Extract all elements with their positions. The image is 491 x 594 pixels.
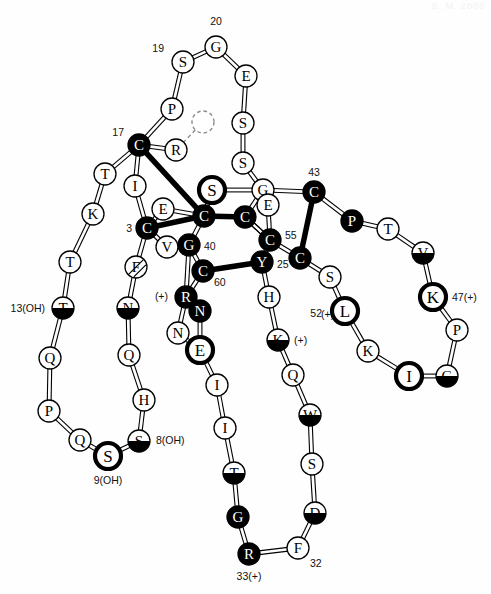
- residue-s22[interactable]: S: [232, 112, 254, 134]
- bond: [242, 86, 248, 113]
- bond: [126, 318, 130, 345]
- residue-c54[interactable]: C: [289, 247, 311, 269]
- residue-letter: T: [100, 166, 109, 182]
- residue-letter: S: [207, 181, 216, 200]
- residue-s8[interactable]: S: [128, 430, 150, 452]
- bond: [51, 317, 63, 349]
- residue-c60[interactable]: C: [192, 260, 214, 282]
- label-60: 60: [214, 276, 226, 288]
- residue-t14[interactable]: T: [59, 251, 81, 273]
- residue-c17[interactable]: C: [128, 134, 150, 156]
- label-32: 32: [310, 557, 322, 569]
- residue-q28[interactable]: Q: [282, 364, 304, 386]
- residue-p44[interactable]: P: [341, 210, 363, 232]
- bond: [178, 306, 185, 323]
- residue-w29[interactable]: W: [299, 404, 321, 426]
- residue-f4[interactable]: F: [125, 256, 147, 278]
- bond: [55, 416, 74, 434]
- residue-s19[interactable]: S: [172, 51, 194, 73]
- residue-d31[interactable]: D: [304, 502, 326, 524]
- residue-c55[interactable]: C: [259, 229, 281, 251]
- residue-letter: S: [326, 269, 334, 285]
- residue-q10[interactable]: Q: [69, 429, 91, 451]
- residue-e-side[interactable]: E: [152, 198, 174, 220]
- residue-h7[interactable]: H: [133, 389, 155, 411]
- residue-p18[interactable]: P: [161, 98, 183, 120]
- label-9-oh: 9(OH): [94, 474, 123, 486]
- residue-circle: [192, 111, 214, 133]
- residue-letter: C: [199, 208, 209, 224]
- residue-c3[interactable]: C: [136, 217, 158, 239]
- residue-letter: E: [195, 341, 205, 360]
- label-19: 19: [152, 42, 164, 54]
- bond: [269, 306, 278, 330]
- residue-i36[interactable]: I: [214, 417, 236, 439]
- residue-s30[interactable]: S: [301, 453, 323, 475]
- residue-letter: T: [383, 221, 392, 237]
- residue-letter: V: [418, 245, 429, 261]
- label-17: 17: [112, 126, 124, 138]
- residue-s23[interactable]: S: [232, 152, 254, 174]
- bond: [225, 437, 234, 463]
- residue-letter: F: [132, 259, 140, 275]
- residue-r33[interactable]: R: [238, 543, 260, 565]
- residue-q6[interactable]: Q: [118, 344, 140, 366]
- residue-letter: R: [171, 142, 181, 158]
- residue-e38[interactable]: E: [187, 337, 213, 363]
- residue-y25[interactable]: Y: [251, 251, 273, 273]
- label-55: 55: [285, 229, 297, 241]
- residue-e-center[interactable]: E: [257, 194, 279, 216]
- residue-k15[interactable]: K: [82, 203, 104, 225]
- residue-letter: P: [168, 101, 176, 117]
- bond: [63, 272, 71, 299]
- residue-letter: H: [264, 289, 275, 305]
- residue-letter: Q: [75, 432, 86, 448]
- residue-i50[interactable]: I: [396, 363, 422, 389]
- residue-letter: F: [294, 540, 302, 556]
- residue-i2[interactable]: I: [124, 175, 146, 197]
- residue-g20[interactable]: G: [205, 36, 227, 58]
- residue-l52[interactable]: L: [332, 298, 358, 324]
- residue-c-center-left[interactable]: C: [193, 205, 215, 227]
- residue-v46[interactable]: V: [412, 242, 434, 264]
- residue-k27[interactable]: K: [267, 329, 289, 351]
- residue-s53[interactable]: S: [319, 266, 341, 288]
- residue-letter: P: [45, 403, 53, 419]
- residue-k47[interactable]: K: [420, 284, 446, 310]
- residue-g34[interactable]: G: [227, 506, 249, 528]
- residue-letter: C: [142, 220, 152, 236]
- residue-t13[interactable]: T: [52, 297, 74, 319]
- residue-t45[interactable]: T: [377, 218, 399, 240]
- residue-p11[interactable]: P: [38, 400, 60, 422]
- bond: [136, 195, 146, 219]
- bond: [222, 53, 240, 71]
- residue-n39[interactable]: N: [167, 322, 189, 344]
- residue-e21[interactable]: E: [235, 65, 257, 87]
- residue-s9[interactable]: S: [95, 443, 121, 469]
- label-20: 20: [210, 15, 222, 27]
- label-13-oh: 13(OH): [11, 302, 45, 314]
- residue-unknown-dashed[interactable]: [192, 111, 214, 133]
- bond: [134, 155, 140, 176]
- residue-letter: S: [135, 433, 143, 449]
- residue-q12[interactable]: Q: [39, 347, 61, 369]
- residue-s-center[interactable]: S: [199, 177, 225, 203]
- residue-c-center-right[interactable]: C: [234, 206, 256, 228]
- residue-t16[interactable]: T: [94, 163, 116, 185]
- residue-i37[interactable]: I: [206, 374, 228, 396]
- residue-p48[interactable]: P: [446, 319, 468, 341]
- residue-n5[interactable]: N: [117, 297, 139, 319]
- residue-t35[interactable]: T: [223, 462, 245, 484]
- residue-g49[interactable]: G: [436, 365, 458, 387]
- label-8-oh: 8(OH): [156, 434, 185, 446]
- residue-r-dashed-link[interactable]: R: [165, 139, 187, 161]
- bond: [173, 209, 195, 216]
- residue-c43[interactable]: C: [303, 181, 325, 203]
- residue-k51[interactable]: K: [357, 340, 379, 362]
- residue-g40[interactable]: G: [178, 234, 200, 256]
- bond: [73, 222, 91, 254]
- residue-v-side[interactable]: V: [156, 236, 178, 258]
- residue-f32[interactable]: F: [287, 537, 309, 559]
- residue-r-plus[interactable]: R: [175, 286, 197, 308]
- residue-h26[interactable]: H: [258, 286, 280, 308]
